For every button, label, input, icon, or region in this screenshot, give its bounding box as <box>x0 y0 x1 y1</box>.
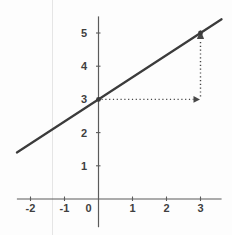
right-arrowhead <box>194 96 201 103</box>
point-marker-0-3 <box>96 97 101 102</box>
point-marker-3-5 <box>198 31 203 36</box>
x-tick-label: -1 <box>60 202 70 214</box>
plotted-line <box>17 19 222 152</box>
y-tick-label: 1 <box>81 160 87 172</box>
y-tick-label: 4 <box>81 60 88 72</box>
y-tick-label: 3 <box>81 93 87 105</box>
x-tick-label: 2 <box>163 202 169 214</box>
x-tick-label: -2 <box>26 202 36 214</box>
y-tick-label: 5 <box>81 27 87 39</box>
y-tick-label: 2 <box>81 127 87 139</box>
x-tick-label: 1 <box>129 202 135 214</box>
graph-canvas: -2-1012312345 <box>0 0 232 235</box>
x-tick-label: 3 <box>197 202 203 214</box>
x-tick-label: 0 <box>85 202 91 214</box>
graph-figure: -2-1012312345 <box>0 0 232 235</box>
